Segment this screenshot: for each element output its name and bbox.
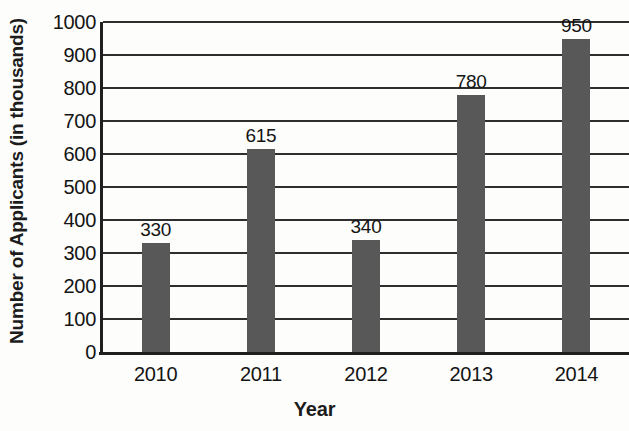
gridline xyxy=(103,21,629,23)
y-axis-line xyxy=(100,22,103,355)
bar-chart: Number of Applicants (in thousands) 0100… xyxy=(0,0,629,431)
gridline xyxy=(103,186,629,188)
bar-value-label: 340 xyxy=(351,216,382,238)
y-axis-tick-label: 300 xyxy=(0,242,96,265)
bar xyxy=(457,95,485,352)
x-axis-tick-label: 2010 xyxy=(134,363,177,386)
y-axis-tick-label: 600 xyxy=(0,143,96,166)
bar xyxy=(142,243,170,352)
y-axis-tick-label: 100 xyxy=(0,308,96,331)
y-axis-tick-label: 400 xyxy=(0,209,96,232)
y-axis-tick-label: 500 xyxy=(0,176,96,199)
x-axis-tick-label: 2013 xyxy=(450,363,493,386)
gridline xyxy=(103,87,629,89)
bar-value-label: 615 xyxy=(245,125,276,147)
bar-value-label: 330 xyxy=(140,219,171,241)
x-axis-tick-label: 2012 xyxy=(344,363,387,386)
x-axis-line xyxy=(99,352,629,355)
x-axis-title: Year xyxy=(0,398,629,421)
gridline xyxy=(103,54,629,56)
bar xyxy=(562,39,590,353)
bar-value-label: 780 xyxy=(456,71,487,93)
bar xyxy=(247,149,275,352)
y-axis-tick-label: 800 xyxy=(0,77,96,100)
gridline xyxy=(103,153,629,155)
y-axis-tick-labels: 01002003004005006007008009001000 xyxy=(0,0,96,431)
y-axis-tick-label: 700 xyxy=(0,110,96,133)
bar xyxy=(352,240,380,352)
y-axis-tick-label: 900 xyxy=(0,44,96,67)
x-axis-tick-label: 2014 xyxy=(555,363,598,386)
y-axis-tick-label: 200 xyxy=(0,275,96,298)
gridline xyxy=(103,120,629,122)
bar-value-label: 950 xyxy=(561,15,592,37)
y-axis-tick-label: 1000 xyxy=(0,11,96,34)
x-axis-tick-label: 2011 xyxy=(240,363,282,386)
y-axis-tick-label: 0 xyxy=(0,341,96,364)
